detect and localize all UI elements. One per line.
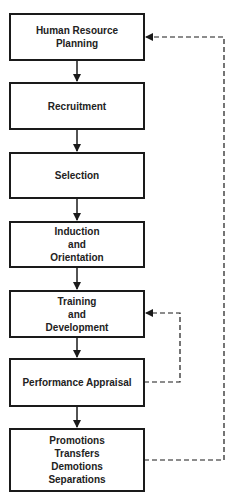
step-label: Human Resource — [36, 24, 118, 37]
step-promotions-transfers: Promotions Transfers Demotions Separatio… — [9, 428, 145, 492]
step-label: Training — [58, 295, 97, 308]
step-label: Separations — [48, 473, 105, 486]
step-selection: Selection — [9, 152, 145, 199]
step-label: Development — [46, 321, 109, 334]
step-label: Performance Appraisal — [22, 376, 131, 389]
step-label: Orientation — [50, 251, 103, 264]
step-label: Promotions — [49, 434, 105, 447]
step-performance-appraisal: Performance Appraisal — [9, 358, 145, 407]
feedback-appraisal-to-training — [144, 313, 180, 382]
step-label: and — [68, 238, 86, 251]
step-training-development: Training and Development — [9, 290, 145, 338]
step-label: Induction — [55, 225, 100, 238]
step-human-resource-planning: Human Resource Planning — [9, 13, 145, 61]
step-label: Recruitment — [48, 100, 106, 113]
step-label: Demotions — [51, 460, 103, 473]
step-label: Planning — [56, 37, 98, 50]
step-label: Selection — [55, 169, 99, 182]
step-label: and — [68, 308, 86, 321]
feedback-promotions-to-planning — [144, 37, 224, 460]
step-label: Transfers — [54, 447, 99, 460]
step-recruitment: Recruitment — [9, 82, 145, 130]
step-induction-orientation: Induction and Orientation — [9, 221, 145, 268]
